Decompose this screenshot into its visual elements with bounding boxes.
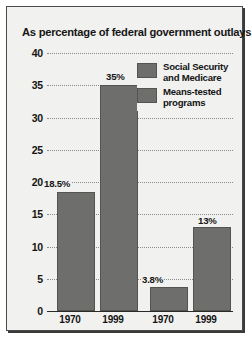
axis-baseline: [47, 311, 233, 312]
legend-label-social-security: Social Security and Medicare: [163, 62, 228, 83]
legend-item-social-security: Social Security and Medicare: [137, 62, 241, 83]
ytick-0: 0: [11, 306, 43, 317]
ytick-5: 5: [11, 274, 43, 285]
xtick-1999-means-tested: 1999: [186, 315, 226, 325]
chart-card: As percentage of federal government outl…: [6, 6, 243, 331]
bar-1970-social-security: [57, 192, 95, 311]
bar-1999-social-security: [100, 85, 138, 311]
xtick-1999-social-security: 1999: [93, 315, 133, 325]
ytick-25: 25: [11, 145, 43, 156]
legend-label-line1: Means-tested: [163, 86, 221, 97]
ytick-15: 15: [11, 209, 43, 220]
bar-label-1999-social-security: 35%: [105, 72, 126, 82]
ytick-20: 20: [11, 177, 43, 188]
legend-swatch-icon-social-security: [137, 63, 157, 78]
bar-label-1999-means-tested: 13%: [197, 216, 218, 226]
legend-label-line2: and Medicare: [163, 72, 221, 83]
chart-title: As percentage of federal government outl…: [22, 27, 237, 38]
legend-label-line2: programs: [163, 97, 205, 108]
gridline-25: [47, 150, 233, 151]
gridline-30: [47, 118, 233, 119]
ytick-35: 35: [11, 80, 43, 91]
chart-figure: As percentage of federal government outl…: [0, 0, 251, 342]
ytick-40: 40: [11, 48, 43, 59]
gridline-40: [47, 53, 233, 54]
bar-1970-means-tested: [150, 287, 188, 312]
ytick-30: 30: [11, 113, 43, 124]
gridline-20: [47, 182, 233, 183]
legend-label-means-tested: Means-tested programs: [163, 87, 221, 108]
legend-item-means-tested: Means-tested programs: [137, 87, 241, 108]
chart-legend: Social Security and Medicare Means-teste…: [137, 60, 241, 111]
xtick-1970-social-security: 1970: [50, 315, 90, 325]
ytick-10: 10: [11, 242, 43, 253]
bar-1999-means-tested: [193, 227, 231, 311]
bar-label-1970-social-security: 18.5%: [43, 179, 71, 189]
legend-label-line1: Social Security: [163, 61, 228, 72]
bar-label-1970-means-tested: 3.8%: [141, 275, 164, 285]
xtick-1970-means-tested: 1970: [143, 315, 183, 325]
legend-swatch-icon-means-tested: [137, 88, 157, 103]
